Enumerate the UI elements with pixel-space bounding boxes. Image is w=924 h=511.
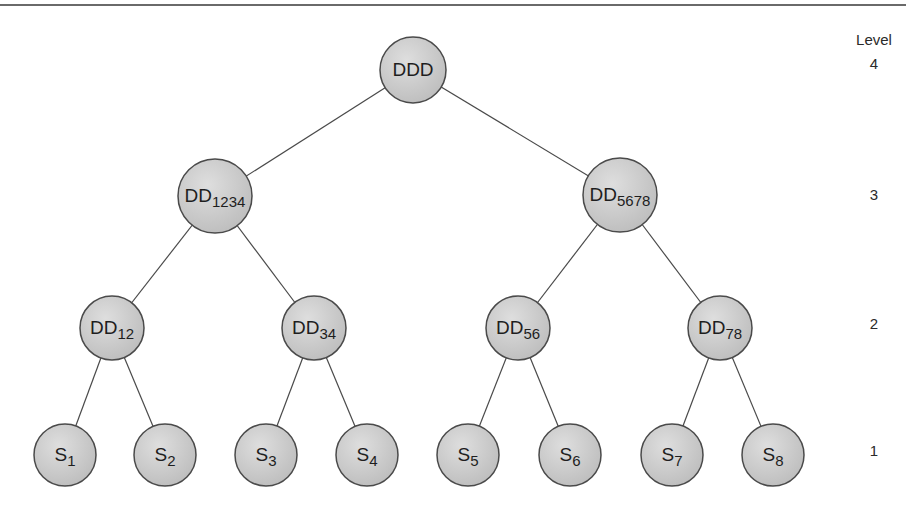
node-DD12: DD12 — [80, 296, 144, 360]
tree-svg: DDDDD1234DD5678DD12DD34DD56DD78S1S2S3S4S… — [0, 0, 924, 511]
node-S6: S6 — [539, 424, 601, 486]
node-DD1234: DD1234 — [178, 159, 252, 233]
level-header: Level — [849, 31, 899, 48]
edges — [65, 70, 773, 455]
node-DD34: DD34 — [282, 296, 346, 360]
level-label-2: 2 — [849, 315, 899, 332]
node-S7: S7 — [641, 424, 703, 486]
node-S4: S4 — [336, 424, 398, 486]
node-S1: S1 — [34, 424, 96, 486]
node-DD78: DD78 — [688, 296, 752, 360]
node-DD56: DD56 — [486, 296, 550, 360]
node-label: DDD — [392, 59, 433, 80]
node-S5: S5 — [437, 424, 499, 486]
level-label-3: 3 — [849, 186, 899, 203]
tree-diagram: DDDDD1234DD5678DD12DD34DD56DD78S1S2S3S4S… — [0, 0, 924, 511]
node-S8: S8 — [742, 424, 804, 486]
node-DD5678: DD5678 — [583, 158, 657, 232]
level-label-4: 4 — [849, 55, 899, 72]
node-DDD: DDD — [380, 37, 446, 103]
node-S2: S2 — [134, 424, 196, 486]
node-S3: S3 — [235, 424, 297, 486]
level-label-1: 1 — [849, 442, 899, 459]
